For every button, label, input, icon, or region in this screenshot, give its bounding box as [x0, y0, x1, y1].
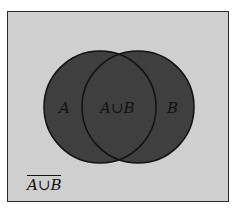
set-b-label: B: [166, 99, 178, 117]
union-label: A∪B: [98, 99, 134, 117]
complement-label: A∪B: [27, 175, 61, 193]
set-a-label: A: [57, 99, 70, 117]
